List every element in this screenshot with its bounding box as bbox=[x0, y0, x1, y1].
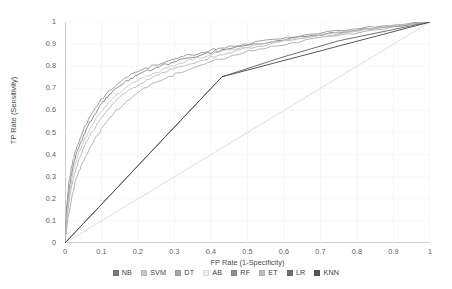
legend-label: RF bbox=[240, 268, 250, 277]
legend-label: NB bbox=[122, 268, 132, 277]
legend-swatch-icon bbox=[141, 270, 147, 276]
y-tick-label: 0.7 bbox=[46, 83, 56, 92]
y-tick-label: 0 bbox=[52, 238, 56, 247]
legend-swatch-icon bbox=[113, 270, 119, 276]
y-tick-label: 0.8 bbox=[46, 61, 56, 70]
x-tick-label: 0.2 bbox=[133, 247, 143, 256]
legend-item-dt[interactable]: DT bbox=[175, 268, 194, 277]
x-tick-label: 0.5 bbox=[242, 247, 252, 256]
y-tick-label: 0.3 bbox=[46, 172, 56, 181]
legend-swatch-icon bbox=[259, 270, 265, 276]
legend-swatch-icon bbox=[314, 270, 320, 276]
x-tick-label: 0.3 bbox=[169, 247, 179, 256]
legend-swatch-icon bbox=[203, 270, 209, 276]
y-tick-label: 0.2 bbox=[46, 194, 56, 203]
legend-item-ab[interactable]: AB bbox=[203, 268, 222, 277]
x-tick-label: 0.6 bbox=[279, 247, 289, 256]
legend-label: ET bbox=[268, 268, 278, 277]
legend-label: DT bbox=[184, 268, 194, 277]
x-tick-label: 0.1 bbox=[96, 247, 106, 256]
y-tick-label: 0.4 bbox=[46, 150, 56, 159]
legend-label: LR bbox=[296, 268, 306, 277]
roc-chart-figure: TP Rate (Sensitivity) 00.10.20.30.40.50.… bbox=[0, 0, 452, 289]
x-tick-label: 0.8 bbox=[352, 247, 362, 256]
legend-label: SVM bbox=[150, 268, 166, 277]
x-tick-label: 0.4 bbox=[206, 247, 216, 256]
x-tick-label: 0 bbox=[63, 247, 67, 256]
legend-swatch-icon bbox=[287, 270, 293, 276]
legend-item-et[interactable]: ET bbox=[259, 268, 278, 277]
y-tick-label: 0.5 bbox=[46, 128, 56, 137]
y-tick-label: 1 bbox=[52, 17, 56, 26]
legend-item-lr[interactable]: LR bbox=[287, 268, 306, 277]
roc-curves-svg bbox=[65, 22, 430, 243]
legend-swatch-icon bbox=[175, 270, 181, 276]
legend-item-nb[interactable]: NB bbox=[113, 268, 132, 277]
y-tick-label: 0.6 bbox=[46, 105, 56, 114]
y-axis-title: TP Rate (Sensitivity) bbox=[9, 51, 18, 171]
x-tick-label: 0.7 bbox=[315, 247, 325, 256]
legend-item-svm[interactable]: SVM bbox=[141, 268, 166, 277]
x-axis-title: FP Rate (1-Specificity) bbox=[65, 258, 430, 267]
y-tick-label: 0.9 bbox=[46, 39, 56, 48]
plot-area bbox=[65, 22, 430, 243]
x-tick-label: 1 bbox=[428, 247, 432, 256]
legend-swatch-icon bbox=[231, 270, 237, 276]
legend-item-rf[interactable]: RF bbox=[231, 268, 250, 277]
y-tick-label: 0.1 bbox=[46, 216, 56, 225]
legend-item-knn[interactable]: KNN bbox=[314, 268, 339, 277]
x-tick-label: 0.9 bbox=[388, 247, 398, 256]
legend-label: KNN bbox=[323, 268, 339, 277]
y-axis-tick-labels: 00.10.20.30.40.50.60.70.80.91 bbox=[24, 22, 60, 243]
chart-legend: NBSVMDTABRFETLRKNN bbox=[0, 268, 452, 277]
legend-label: AB bbox=[212, 268, 222, 277]
